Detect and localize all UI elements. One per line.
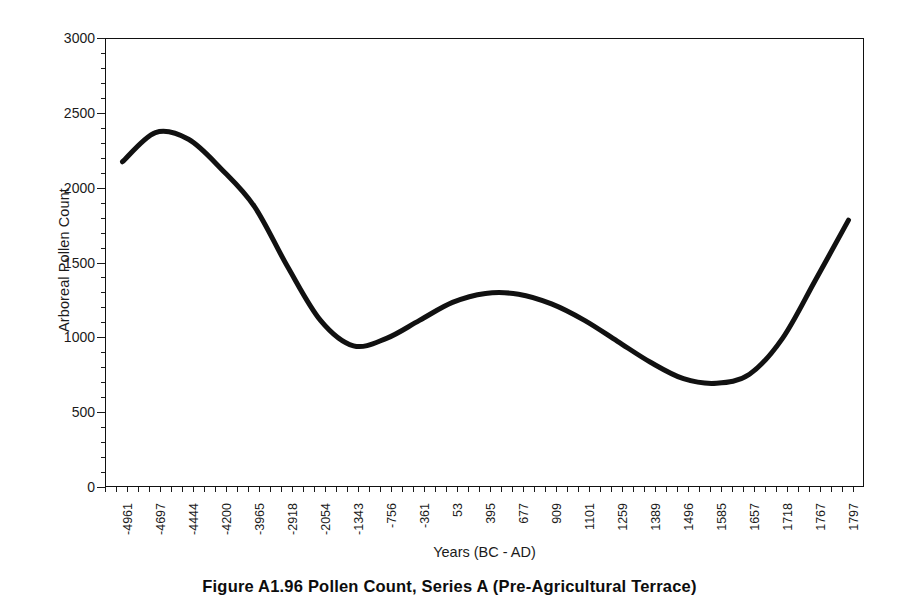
x-minor-tick-mark — [710, 487, 711, 492]
x-minor-tick-mark — [743, 487, 744, 492]
x-minor-tick-mark — [589, 487, 590, 492]
y-tick-mark — [97, 337, 105, 338]
x-minor-tick-mark — [820, 487, 821, 492]
y-axis-tick-labels: 050010001500200025003000 — [33, 0, 95, 598]
y-tick-label: 1000 — [33, 329, 95, 345]
x-minor-tick-mark — [633, 487, 634, 492]
x-tick-label: 1767 — [815, 503, 827, 549]
x-minor-tick-mark — [765, 487, 766, 492]
x-tick-label: -2918 — [287, 503, 299, 549]
plot-area — [105, 38, 864, 487]
x-minor-tick-mark — [435, 487, 436, 492]
x-minor-tick-mark — [237, 487, 238, 492]
x-minor-tick-mark — [567, 487, 568, 492]
x-minor-tick-mark — [501, 487, 502, 492]
x-minor-tick-mark — [831, 487, 832, 492]
x-tick-label: -4200 — [221, 503, 233, 549]
x-minor-tick-mark — [611, 487, 612, 492]
y-tick-label: 3000 — [33, 30, 95, 46]
x-minor-tick-mark — [270, 487, 271, 492]
x-tick-label: -361 — [419, 503, 431, 549]
x-minor-tick-mark — [512, 487, 513, 492]
x-tick-label: 1797 — [848, 503, 860, 549]
x-minor-tick-mark — [655, 487, 656, 492]
x-tick-label: 1259 — [617, 503, 629, 549]
x-tick-label: -4444 — [188, 503, 200, 549]
y-tick-label: 2500 — [33, 105, 95, 121]
x-minor-tick-mark — [314, 487, 315, 492]
x-minor-tick-mark — [358, 487, 359, 492]
series-line-arboreal-pollen-count — [123, 131, 849, 383]
x-minor-tick-mark — [446, 487, 447, 492]
x-minor-tick-mark — [842, 487, 843, 492]
x-minor-tick-mark — [369, 487, 370, 492]
x-minor-tick-mark — [116, 487, 117, 492]
x-minor-tick-mark — [798, 487, 799, 492]
x-minor-tick-mark — [171, 487, 172, 492]
x-tick-label: -756 — [386, 503, 398, 549]
x-tick-label: 53 — [452, 503, 464, 549]
x-minor-tick-mark — [776, 487, 777, 492]
x-minor-tick-mark — [127, 487, 128, 492]
x-minor-tick-mark — [721, 487, 722, 492]
x-tick-label: -3965 — [254, 503, 266, 549]
x-minor-tick-mark — [292, 487, 293, 492]
x-minor-tick-mark — [424, 487, 425, 492]
x-axis-tick-labels: -4961-4697-4444-4200-3965-2918-2054-1343… — [105, 497, 865, 543]
x-axis-tick-marks — [105, 487, 865, 497]
x-tick-label: 1585 — [716, 503, 728, 549]
x-minor-tick-mark — [754, 487, 755, 492]
x-minor-tick-mark — [578, 487, 579, 492]
x-tick-label: 1718 — [782, 503, 794, 549]
x-minor-tick-mark — [457, 487, 458, 492]
x-minor-tick-mark — [402, 487, 403, 492]
x-minor-tick-mark — [534, 487, 535, 492]
x-minor-tick-mark — [303, 487, 304, 492]
x-tick-label: 677 — [518, 503, 530, 549]
x-minor-tick-mark — [226, 487, 227, 492]
x-tick-label: -4697 — [155, 503, 167, 549]
x-minor-tick-mark — [380, 487, 381, 492]
x-tick-label: 909 — [551, 503, 563, 549]
x-minor-tick-mark — [556, 487, 557, 492]
x-minor-tick-mark — [545, 487, 546, 492]
x-minor-tick-mark — [259, 487, 260, 492]
x-minor-tick-mark — [666, 487, 667, 492]
y-tick-label: 0 — [33, 479, 95, 495]
y-tick-mark — [97, 487, 105, 488]
x-tick-label: -4961 — [122, 503, 134, 549]
figure-caption: Figure A1.96 Pollen Count, Series A (Pre… — [0, 577, 899, 596]
x-minor-tick-mark — [160, 487, 161, 492]
x-minor-tick-mark — [677, 487, 678, 492]
x-minor-tick-mark — [644, 487, 645, 492]
x-minor-tick-mark — [138, 487, 139, 492]
x-minor-tick-mark — [413, 487, 414, 492]
x-minor-tick-mark — [600, 487, 601, 492]
x-minor-tick-mark — [281, 487, 282, 492]
x-minor-tick-mark — [193, 487, 194, 492]
x-minor-tick-mark — [215, 487, 216, 492]
y-tick-mark — [97, 412, 105, 413]
x-minor-tick-mark — [622, 487, 623, 492]
y-tick-label: 2000 — [33, 180, 95, 196]
x-minor-tick-mark — [105, 487, 106, 492]
x-tick-label: 395 — [485, 503, 497, 549]
x-minor-tick-mark — [468, 487, 469, 492]
y-tick-mark — [97, 188, 105, 189]
x-tick-label: -1343 — [353, 503, 365, 549]
x-minor-tick-mark — [149, 487, 150, 492]
pollen-count-line-chart — [106, 39, 865, 488]
x-minor-tick-mark — [809, 487, 810, 492]
x-minor-tick-mark — [391, 487, 392, 492]
figure-container: Arboreal Pollen Count 050010001500200025… — [0, 0, 899, 598]
x-tick-label: 1496 — [683, 503, 695, 549]
y-tick-mark — [97, 263, 105, 264]
x-minor-tick-mark — [688, 487, 689, 492]
x-minor-tick-mark — [204, 487, 205, 492]
x-minor-tick-mark — [490, 487, 491, 492]
x-minor-tick-mark — [182, 487, 183, 492]
x-minor-tick-mark — [347, 487, 348, 492]
x-tick-label: 1389 — [650, 503, 662, 549]
y-tick-mark — [97, 113, 105, 114]
x-minor-tick-mark — [523, 487, 524, 492]
